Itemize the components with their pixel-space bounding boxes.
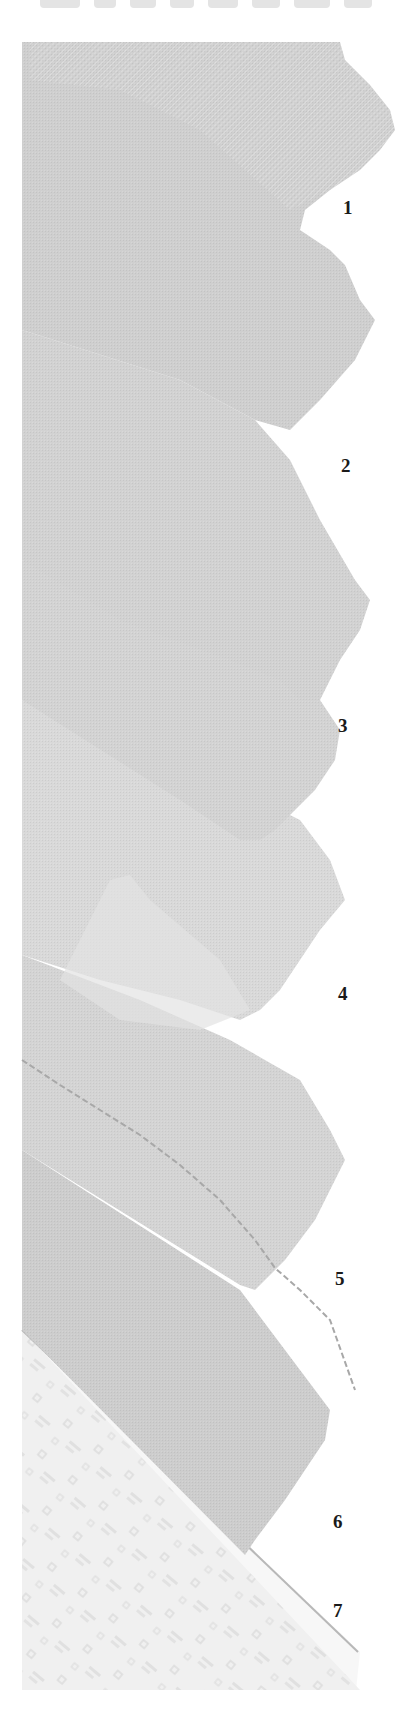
swatch-label-4: 4 bbox=[338, 983, 348, 1005]
fabric-swatch-stack bbox=[0, 0, 402, 1727]
swatch-label-5: 5 bbox=[335, 1268, 345, 1290]
swatch-label-1: 1 bbox=[343, 197, 353, 219]
swatch-label-3: 3 bbox=[338, 715, 348, 737]
fabric-swatches-illustration bbox=[0, 0, 402, 1727]
swatch-label-6: 6 bbox=[333, 1511, 343, 1533]
swatch-label-2: 2 bbox=[341, 455, 351, 477]
swatch-label-7: 7 bbox=[333, 1600, 343, 1622]
